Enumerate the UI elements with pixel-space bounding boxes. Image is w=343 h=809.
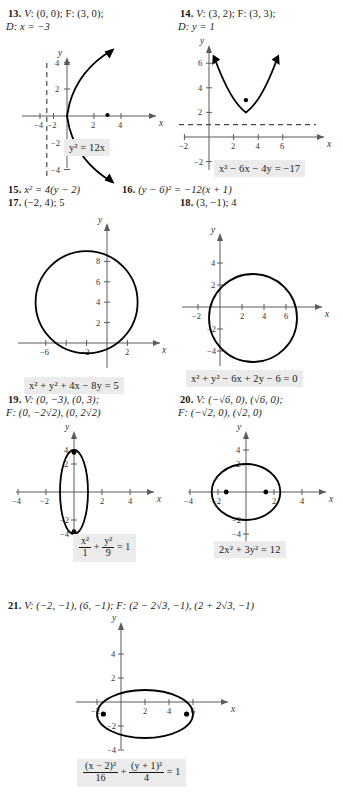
equation-20-text: 2x² + 3y² = 12 [219, 544, 281, 555]
equation-18-text: x² + y² − 6x + 2y − 6 = 0 [191, 373, 298, 384]
svg-text:−2: −2 [51, 138, 60, 148]
answer-13-line1: 13. V: (0, 0); F: (3, 0); [8, 8, 104, 21]
svg-text:−4: −4 [107, 745, 117, 755]
graph-18-circle: −2 2 4 6 2 4 −2 −4 x y [176, 210, 342, 370]
equation-21-fraction-2: (y + 1)² 4 [129, 761, 164, 783]
svg-text:−2: −2 [48, 120, 57, 130]
equation-19-operator: + [94, 541, 100, 552]
answer-19-line2: F: (0, −2√2), (0, 2√2) [6, 407, 101, 420]
svg-text:−4: −4 [34, 120, 44, 130]
equation-17-text: x² + y² + 4x − 8y = 5 [29, 380, 119, 391]
equation-13-text: y² = 12x [69, 142, 105, 153]
svg-text:2: 2 [125, 347, 129, 357]
answer-13-number: 13. [8, 8, 21, 19]
svg-text:4: 4 [128, 496, 133, 506]
svg-text:8: 8 [96, 256, 100, 266]
svg-text:2: 2 [55, 84, 59, 94]
equation-19-fraction-2: y² 9 [102, 536, 114, 558]
graph-17-circle: −6 −2 2 2 4 6 8 x y [4, 210, 170, 370]
svg-text:4: 4 [262, 311, 267, 321]
svg-text:−2: −2 [40, 496, 49, 506]
equation-19-rhs: = 1 [117, 541, 130, 552]
equation-21-rhs: = 1 [167, 766, 180, 777]
equation-19-den1: 1 [79, 548, 91, 559]
answer-16-number: 16. [122, 184, 135, 195]
equation-14-text: x² − 6x − 4y = −17 [219, 163, 300, 174]
equation-17: x² + y² + 4x − 8y = 5 [24, 377, 124, 394]
svg-text:6: 6 [284, 311, 288, 321]
answer-15-text: x² = 4(y − 2) [24, 184, 80, 195]
equation-20: 2x² + 3y² = 12 [214, 541, 286, 558]
svg-text:x: x [156, 494, 162, 504]
equation-19-num1: x² [79, 536, 91, 548]
svg-text:−4: −4 [51, 165, 61, 175]
equation-21-num1: (x − 2)² [83, 761, 118, 773]
answer-21-number: 21. [8, 600, 21, 611]
svg-text:x: x [328, 494, 334, 504]
svg-text:2: 2 [211, 280, 215, 290]
answer-15: 15. x² = 4(y − 2) [8, 184, 80, 197]
svg-text:y: y [210, 225, 216, 235]
svg-text:−2: −2 [179, 141, 188, 151]
graph-14-parabola: −2 2 4 6 2 4 6 −2 x y [176, 36, 342, 176]
answer-19-number: 19. [8, 394, 21, 405]
answer-18-text: (3, −1); 4 [196, 197, 236, 208]
svg-text:2: 2 [111, 673, 115, 683]
answer-19-vertices: V: (0, −3), (0, 3); [24, 394, 99, 405]
svg-text:−2: −2 [81, 347, 90, 357]
answer-14-line1: 14. V: (3, 2); F: (3, 3); [180, 8, 276, 21]
svg-text:2: 2 [231, 141, 235, 151]
graph-19-ellipse: −4 −2 2 4 2 4 −2 −4 x y [4, 420, 170, 545]
svg-text:4: 4 [55, 58, 60, 68]
svg-text:−4: −4 [232, 529, 242, 539]
answer-17-text: (−2, 4); 5 [24, 197, 64, 208]
equation-21-den1: 16 [83, 773, 118, 784]
equation-19-den2: 9 [102, 548, 114, 559]
equation-13: y² = 12x [64, 139, 110, 156]
svg-text:y: y [236, 422, 242, 432]
svg-text:2: 2 [96, 318, 100, 328]
svg-text:−2: −2 [194, 157, 203, 167]
answer-16: 16. (y − 6)² = −12(x + 1) [122, 184, 232, 197]
answer-20-line1: 20. V: (−√6, 0), (√6, 0); [180, 394, 283, 407]
svg-text:4: 4 [198, 83, 203, 93]
svg-text:4: 4 [96, 297, 101, 307]
answer-16-text: (y − 6)² = −12(x + 1) [138, 184, 232, 195]
graph-20-ellipse: −4 −2 2 4 2 4 −2 −4 x y [176, 420, 342, 545]
answer-20-line2: F: (−√2, 0), (√2, 0) [178, 407, 262, 420]
svg-text:4: 4 [118, 120, 123, 130]
answer-20-number: 20. [180, 394, 193, 405]
svg-text:y: y [199, 36, 205, 46]
answer-key-page: 13. V: (0, 0); F: (3, 0); D: x = −3 −4 −… [0, 0, 343, 809]
svg-text:−4: −4 [184, 496, 194, 506]
svg-text:x: x [161, 345, 167, 355]
svg-text:x: x [324, 309, 330, 319]
svg-text:−4: −4 [12, 496, 22, 506]
svg-text:4: 4 [111, 649, 116, 659]
equation-14: x² − 6x − 4y = −17 [214, 160, 305, 177]
answer-15-number: 15. [8, 184, 21, 195]
graph-21-ellipse: −2 2 4 6 2 4 −2 −4 x y [62, 613, 262, 753]
svg-text:4: 4 [300, 496, 305, 506]
answer-14-line2: D: y = 1 [178, 21, 215, 34]
answer-19-line1: 19. V: (0, −3), (0, 3); [8, 394, 99, 407]
equation-21: (x − 2)² 16 + (y + 1)² 4 = 1 [77, 759, 186, 787]
svg-text:2: 2 [240, 311, 244, 321]
svg-text:2: 2 [143, 706, 147, 716]
svg-text:4: 4 [211, 258, 216, 268]
svg-text:4: 4 [236, 445, 241, 455]
answer-18-number: 18. [180, 197, 193, 208]
svg-text:y: y [57, 48, 63, 58]
equation-18: x² + y² − 6x + 2y − 6 = 0 [186, 370, 303, 387]
svg-text:2: 2 [100, 496, 104, 506]
svg-text:x: x [158, 118, 164, 128]
answer-14-number: 14. [180, 8, 193, 19]
svg-text:y: y [111, 613, 117, 623]
answer-18: 18. (3, −1); 4 [180, 197, 237, 210]
svg-text:2: 2 [91, 120, 95, 130]
svg-text:x: x [230, 704, 236, 714]
equation-21-den2: 4 [129, 773, 164, 784]
answer-21-vertices-foci: V: (−2, −1), (6, −1); F: (2 − 2√3, −1), … [24, 600, 254, 611]
svg-text:6: 6 [280, 141, 284, 151]
equation-19: x² 1 + y² 9 = 1 [73, 534, 136, 562]
